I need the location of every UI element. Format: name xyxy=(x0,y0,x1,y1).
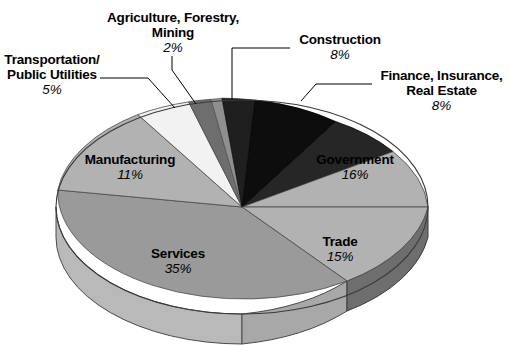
slice-label-government-name: Government xyxy=(300,152,410,167)
callout-transportation-line2: Public Utilities xyxy=(0,67,104,82)
callout-agriculture: Agriculture, Forestry, Mining 2% xyxy=(88,10,258,55)
callout-transportation: Transportation/ Public Utilities 5% xyxy=(0,52,104,97)
callout-finance: Finance, Insurance, Real Estate 8% xyxy=(374,68,509,113)
callout-transportation-pct: 5% xyxy=(0,82,104,97)
callout-agriculture-line1: Agriculture, Forestry, xyxy=(88,10,258,25)
callout-finance-line2: Real Estate xyxy=(374,83,509,98)
callout-finance-pct: 8% xyxy=(374,98,509,113)
slice-label-manufacturing-pct: 11% xyxy=(68,167,192,182)
callout-finance-line1: Finance, Insurance, xyxy=(374,68,509,83)
slice-label-services-name: Services xyxy=(128,246,228,261)
slice-label-services: Services 35% xyxy=(128,246,228,276)
leader-line-construction xyxy=(232,48,290,99)
slice-label-trade-name: Trade xyxy=(298,234,382,249)
slice-label-trade-pct: 15% xyxy=(298,249,382,264)
callout-construction: Construction 8% xyxy=(292,32,388,62)
slice-label-manufacturing-name: Manufacturing xyxy=(68,152,192,167)
slice-label-trade: Trade 15% xyxy=(298,234,382,264)
callout-agriculture-line2: Mining xyxy=(88,25,258,40)
callout-construction-line1: Construction xyxy=(292,32,388,47)
slice-label-government-pct: 16% xyxy=(300,167,410,182)
slice-label-services-pct: 35% xyxy=(128,261,228,276)
pie-chart: Agriculture, Forestry, Mining 2% Transpo… xyxy=(0,0,509,345)
leader-line-transportation xyxy=(100,78,175,108)
callout-agriculture-pct: 2% xyxy=(88,40,258,55)
slice-label-manufacturing: Manufacturing 11% xyxy=(68,152,192,182)
callout-transportation-line1: Transportation/ xyxy=(0,52,104,67)
leader-line-agriculture xyxy=(172,56,196,104)
callout-construction-pct: 8% xyxy=(292,47,388,62)
slice-label-government: Government 16% xyxy=(300,152,410,182)
leader-line-finance xyxy=(301,84,372,101)
